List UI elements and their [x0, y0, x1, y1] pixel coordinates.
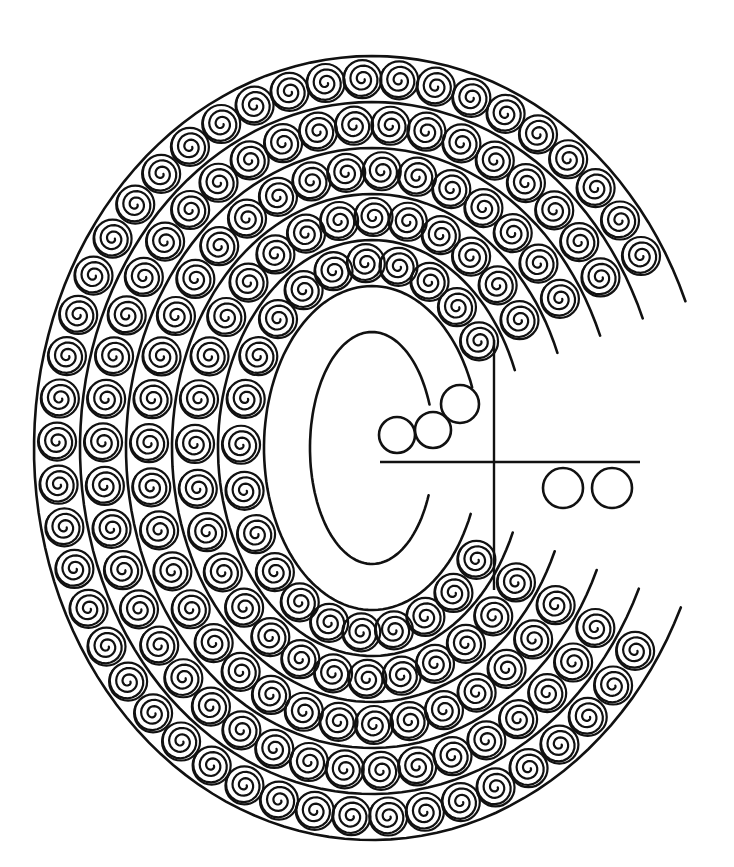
plain-circle	[441, 385, 479, 423]
plain-circle	[379, 417, 415, 453]
spiral-labyrinth-drawing	[0, 0, 734, 867]
plain-circle	[592, 468, 632, 508]
band-lines	[34, 56, 685, 840]
plain-circle	[543, 468, 583, 508]
